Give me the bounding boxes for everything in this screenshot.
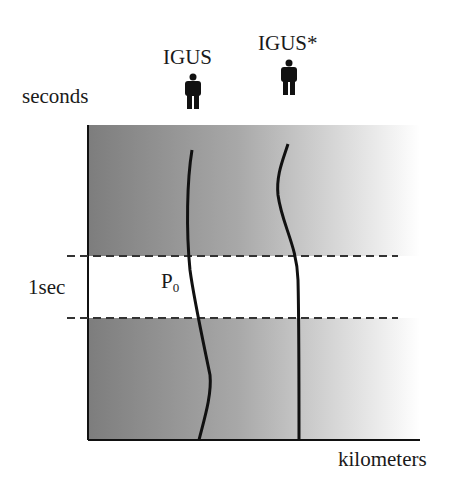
spacetime-diagram — [0, 0, 469, 489]
observer-label-igus-star: IGUS* — [258, 33, 318, 54]
point-label: P0 — [161, 271, 179, 292]
observer-label-igus: IGUS — [163, 47, 212, 68]
shaded-region-bottom — [88, 318, 420, 440]
point-label-subscript: 0 — [173, 280, 180, 295]
shaded-region-top — [88, 125, 420, 256]
person-icon — [281, 60, 297, 96]
x-axis-label: kilometers — [338, 449, 427, 470]
y-axis-label: seconds — [22, 86, 89, 107]
point-label-main: P — [161, 269, 173, 293]
band-label: 1sec — [28, 277, 65, 298]
person-icon — [185, 74, 201, 110]
